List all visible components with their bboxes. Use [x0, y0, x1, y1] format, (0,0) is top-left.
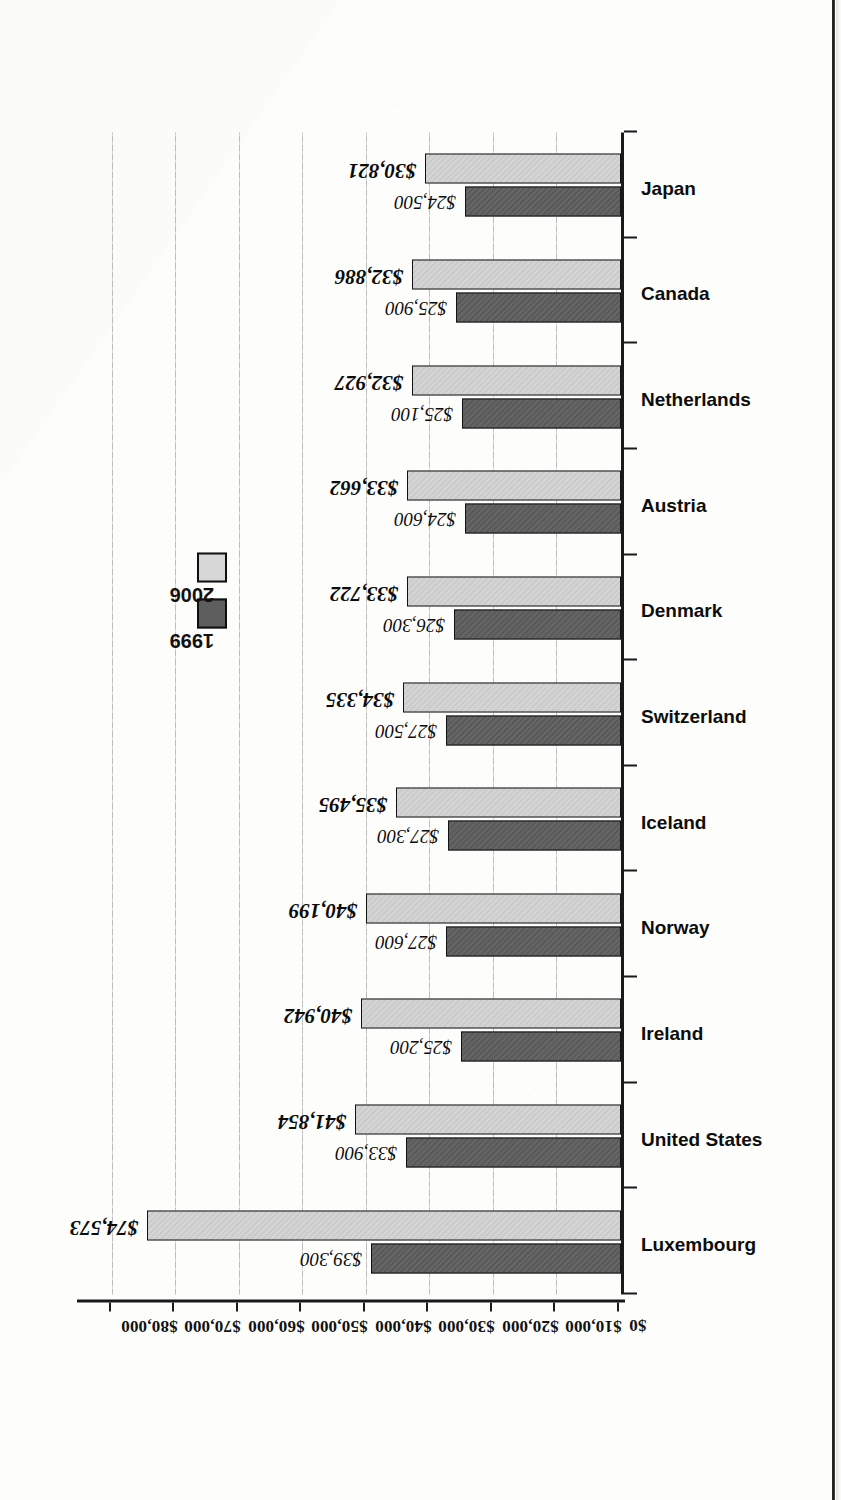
value-axis-tick [299, 1303, 301, 1312]
category-axis-tick [624, 342, 637, 344]
bar-1999[interactable] [460, 1032, 620, 1062]
value-axis-tick [108, 1303, 110, 1312]
bar-2006[interactable] [406, 576, 620, 606]
bar-1999[interactable] [405, 1138, 620, 1168]
category-label: Iceland [641, 811, 706, 833]
bar-value-label: $24,500 [394, 191, 456, 213]
category-axis-tick [624, 1081, 637, 1083]
category-label: Netherlands [641, 389, 751, 411]
bar-2006[interactable] [402, 682, 620, 712]
bar-1999[interactable] [465, 187, 621, 217]
value-axis-tick-label: $10,000 [565, 1316, 622, 1336]
bar-1999[interactable] [371, 1243, 621, 1273]
category-label: Switzerland [641, 706, 747, 728]
category-label: Denmark [641, 600, 722, 622]
bar-group: $33,900$41,854 [81, 1083, 621, 1189]
bar-2006[interactable] [360, 999, 620, 1029]
value-axis-tick [172, 1303, 174, 1312]
bar-2006[interactable] [365, 893, 620, 923]
bar-1999[interactable] [464, 504, 620, 534]
bar-group: $25,200$40,942 [81, 978, 621, 1084]
chart-legend: 19992006 [123, 511, 253, 631]
category-label: Ireland [641, 1022, 703, 1044]
value-axis-tick-label: $30,000 [438, 1316, 495, 1336]
scanned-page: $39,300$74,573$33,900$41,854$25,200$40,9… [0, 0, 841, 1500]
bar-1999[interactable] [446, 715, 621, 745]
category-axis-tick [624, 976, 637, 978]
bar-2006[interactable] [425, 154, 621, 184]
category-label: Japan [641, 177, 696, 199]
bar-value-label: $33,900 [334, 1142, 396, 1164]
legend-item-2006[interactable]: 2006 [123, 539, 243, 585]
value-axis-tick [489, 1303, 491, 1312]
category-axis-tick [624, 236, 637, 238]
bar-group: $27,300$35,495 [81, 766, 621, 872]
value-axis-tick [362, 1303, 364, 1312]
category-axis-tick [624, 447, 637, 449]
value-axis: $0$10,000$20,000$30,000$40,000$50,000$60… [77, 1300, 625, 1303]
bar-group: $25,900$32,886 [81, 238, 621, 344]
bar-chart: $39,300$74,573$33,900$41,854$25,200$40,9… [71, 128, 771, 1373]
bar-2006[interactable] [411, 365, 620, 395]
bar-group: $39,300$74,573 [81, 1189, 621, 1295]
legend-swatch [197, 553, 227, 583]
bar-value-label: $74,573 [70, 1214, 138, 1239]
bar-1999[interactable] [461, 398, 620, 428]
category-axis-tick [624, 131, 637, 133]
category-label: Austria [641, 494, 706, 516]
bar-group: $24,500$30,821 [81, 133, 621, 239]
chart-plot-wrapper: $39,300$74,573$33,900$41,854$25,200$40,9… [71, 128, 771, 1373]
bar-value-label: $25,900 [385, 296, 447, 318]
bar-value-label: $40,199 [288, 897, 356, 922]
value-axis-tick [553, 1303, 555, 1312]
bar-value-label: $39,300 [300, 1247, 362, 1269]
category-axis-tick [624, 659, 637, 661]
bar-value-label: $27,600 [374, 930, 436, 952]
category-label: Norway [641, 917, 710, 939]
bar-value-label: $25,100 [390, 402, 452, 424]
bar-group: $27,500$34,335 [81, 661, 621, 767]
value-axis-tick-label: $50,000 [311, 1316, 368, 1336]
bar-1999[interactable] [447, 821, 620, 851]
bar-value-label: $40,942 [283, 1003, 351, 1028]
page-edge-line [832, 0, 835, 1500]
bar-2006[interactable] [147, 1210, 621, 1240]
bar-value-label: $30,821 [347, 158, 415, 183]
bar-value-label: $35,495 [318, 792, 386, 817]
value-axis-tick-label: $40,000 [374, 1316, 431, 1336]
value-axis-tick [426, 1303, 428, 1312]
bar-2006[interactable] [407, 471, 621, 501]
value-axis-tick-label: $20,000 [501, 1316, 558, 1336]
category-axis-tick [624, 1293, 637, 1295]
legend-label: 1999 [169, 629, 214, 652]
plot-area: $39,300$74,573$33,900$41,854$25,200$40,9… [81, 133, 621, 1295]
page-edge-shadow [836, 0, 841, 1500]
bar-value-label: $33,662 [329, 475, 397, 500]
bar-value-label: $32,886 [334, 263, 402, 288]
bar-2006[interactable] [355, 1105, 621, 1135]
category-label: United States [641, 1128, 762, 1150]
value-axis-tick-label: $70,000 [184, 1316, 241, 1336]
value-axis-tick [235, 1303, 237, 1312]
bar-value-label: $26,300 [383, 613, 445, 635]
bar-2006[interactable] [412, 259, 621, 289]
value-axis-tick-label: $60,000 [247, 1316, 304, 1336]
bar-2006[interactable] [395, 788, 620, 818]
bar-value-label: $24,600 [393, 508, 455, 530]
bar-value-label: $32,927 [334, 369, 402, 394]
category-axis-tick [624, 1187, 637, 1189]
value-axis-tick [617, 1303, 619, 1312]
value-axis-tick-label: $0 [629, 1316, 646, 1336]
bar-value-label: $34,335 [325, 686, 393, 711]
bar-1999[interactable] [456, 292, 621, 322]
value-axis-tick-label: $80,000 [120, 1316, 177, 1336]
bar-1999[interactable] [445, 926, 620, 956]
category-axis: LuxembourgUnited StatesIrelandNorwayIcel… [621, 133, 624, 1295]
category-axis-tick [624, 553, 637, 555]
category-axis-tick [624, 870, 637, 872]
bar-value-label: $41,854 [277, 1109, 345, 1134]
bar-value-label: $33,722 [329, 580, 397, 605]
legend-label: 2006 [169, 583, 214, 606]
bar-1999[interactable] [453, 609, 620, 639]
bar-value-label: $27,300 [376, 825, 438, 847]
